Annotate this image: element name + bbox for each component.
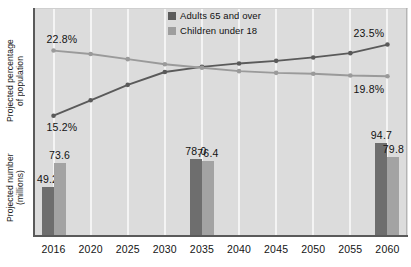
legend-label-children: Children under 18 [180, 25, 257, 36]
bar-label-2060-children: 79.8 [378, 143, 408, 155]
annotation-adults-2016: 15.2% [47, 121, 78, 133]
bar-2060-adults [375, 143, 387, 235]
bar-2016-adults [42, 187, 54, 235]
x-tick-2040: 2040 [219, 243, 259, 255]
x-tick-2025: 2025 [108, 243, 148, 255]
x-tick-2016: 2016 [34, 243, 74, 255]
bar-label-2035-children: 76.4 [193, 147, 223, 159]
bar-label-2060-adults: 94.7 [366, 129, 396, 141]
x-tick-2030: 2030 [145, 243, 185, 255]
gridline-2055 [349, 9, 351, 235]
legend-swatch-adults [168, 12, 176, 20]
x-tick-2020: 2020 [71, 243, 111, 255]
gridline-2020 [90, 9, 92, 235]
annotation-children-2060: 19.8% [353, 83, 384, 95]
gridline-2040 [238, 9, 240, 235]
annotation-adults-2060: 23.5% [353, 27, 384, 39]
bar-label-2016-children: 73.6 [45, 149, 75, 161]
y-axis-line [33, 8, 35, 237]
legend-swatch-children [168, 27, 176, 35]
chart-figure: Projected percentage of population Proje… [0, 0, 411, 267]
gridline-2025 [127, 9, 129, 235]
gridline-2045 [275, 9, 277, 235]
legend-item-adults: Adults 65 and over [168, 9, 261, 22]
x-tick-2060: 2060 [367, 243, 407, 255]
x-tick-2035: 2035 [182, 243, 222, 255]
gridline-2030 [164, 9, 166, 235]
bar-2016-children [54, 163, 66, 235]
gridline-2050 [312, 9, 314, 235]
plot-right-border [406, 8, 407, 237]
y-axis-title-number: Projected number (millions) [5, 142, 31, 234]
x-tick-2050: 2050 [293, 243, 333, 255]
legend-label-adults: Adults 65 and over [180, 10, 261, 21]
bar-2035-adults [190, 159, 202, 235]
x-tick-2055: 2055 [330, 243, 370, 255]
annotation-children-2016: 22.8% [47, 33, 78, 45]
x-axis-line [33, 235, 408, 237]
bar-2060-children [387, 157, 399, 235]
x-tick-2045: 2045 [256, 243, 296, 255]
legend: Adults 65 and over Children under 18 [168, 9, 261, 37]
y-axis-title-percentage: Projected percentage of population [5, 28, 31, 134]
legend-item-children: Children under 18 [168, 24, 261, 37]
bar-2035-children [202, 161, 214, 235]
